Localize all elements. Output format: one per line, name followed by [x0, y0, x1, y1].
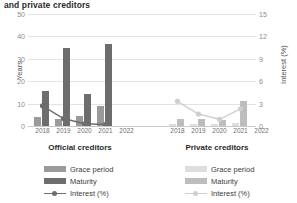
bar-maturity: [198, 119, 205, 126]
caption-official-creditors: Official creditors: [18, 143, 142, 152]
bar-grace-period: [97, 106, 104, 126]
bar-grace-period: [76, 116, 83, 126]
legend-item[interactable]: Maturity: [44, 175, 113, 187]
legend-item[interactable]: Interest (%): [44, 187, 113, 199]
legend-label: Interest (%): [211, 189, 250, 198]
bar-maturity: [240, 101, 247, 126]
y-tick-left: 10: [9, 101, 25, 108]
legend-swatch-icon: [185, 166, 207, 172]
legend-private-creditors: Grace periodMaturityInterest (%): [185, 163, 254, 199]
bar-group: [209, 14, 230, 126]
bar-group: [74, 14, 95, 126]
x-axis-official: 20182019202020212022: [32, 127, 137, 139]
legend-label: Grace period: [70, 165, 113, 174]
legend-official-creditors: Grace periodMaturityInterest (%): [44, 163, 113, 199]
bar-maturity: [84, 94, 91, 126]
x-tick: 2022: [251, 127, 272, 134]
bar-maturity: [105, 44, 112, 126]
bar-grace-period: [55, 119, 62, 126]
legend-item[interactable]: Grace period: [44, 163, 113, 175]
bar-group: [251, 14, 272, 126]
x-tick: 2022: [116, 127, 137, 134]
x-tick: 2021: [230, 127, 251, 134]
legend-swatch-icon: [44, 166, 66, 172]
bar-group: [167, 14, 188, 126]
panel-private-creditors: [167, 14, 272, 126]
legend-line-marker-icon: [185, 190, 207, 197]
legend-item[interactable]: Maturity: [185, 175, 254, 187]
x-axis-private: 20182019202020212022: [167, 127, 272, 139]
legend-swatch-icon: [44, 178, 66, 184]
bar-grace-period: [211, 124, 218, 126]
x-tick: 2021: [95, 127, 116, 134]
bar-group: [95, 14, 116, 126]
legend-item[interactable]: Grace period: [185, 163, 254, 175]
x-tick: 2018: [167, 127, 188, 134]
panel-official-creditors: [32, 14, 137, 126]
bar-grace-period: [169, 124, 176, 126]
x-tick: 2020: [209, 127, 230, 134]
bar-group: [188, 14, 209, 126]
legend-label: Maturity: [211, 177, 238, 186]
bar-group: [32, 14, 53, 126]
bar-grace-period: [34, 117, 41, 126]
bar-grace-period: [232, 123, 239, 126]
caption-private-creditors: Private creditors: [155, 143, 279, 152]
y-tick-left: 50: [9, 11, 25, 18]
bar-group: [230, 14, 251, 126]
y-axis-label-right: Interest (%): [279, 41, 288, 89]
bar-group: [53, 14, 74, 126]
bar-maturity: [42, 91, 49, 126]
chart-plot-area: Years Interest (%) 50403020100 15129630 …: [0, 14, 297, 140]
bar-group: [116, 14, 137, 126]
y-tick-left: 40: [9, 33, 25, 40]
y-tick-left: 0: [9, 123, 25, 130]
legend-label: Grace period: [211, 165, 254, 174]
x-tick: 2018: [32, 127, 53, 134]
x-tick: 2019: [53, 127, 74, 134]
y-tick-left: 30: [9, 56, 25, 63]
chart-title: and private creditors: [4, 0, 90, 11]
y-tick-left: 20: [9, 78, 25, 85]
x-tick: 2019: [188, 127, 209, 134]
bar-maturity: [219, 120, 226, 126]
legend-label: Interest (%): [70, 189, 109, 198]
bar-grace-period: [190, 124, 197, 126]
bar-maturity: [177, 119, 184, 126]
x-tick: 2020: [74, 127, 95, 134]
legend-label: Maturity: [70, 177, 97, 186]
bar-maturity: [63, 48, 70, 126]
legend-swatch-icon: [185, 178, 207, 184]
legend-line-marker-icon: [44, 190, 66, 197]
legend-item[interactable]: Interest (%): [185, 187, 254, 199]
